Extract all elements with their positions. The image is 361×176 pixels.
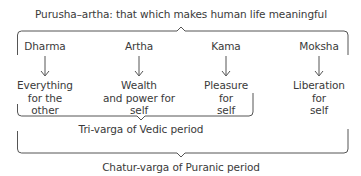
- meaning-line: Liberation: [293, 79, 345, 92]
- arrow-moksha: [315, 56, 323, 76]
- goal-artha: Artha: [125, 40, 153, 53]
- arrow-dharma: [41, 56, 49, 76]
- meaning-kama: Pleasure for self: [204, 79, 248, 117]
- meaning-line: other: [17, 104, 73, 117]
- diagram-title: Purusha–artha: that which makes human li…: [35, 8, 327, 21]
- meaning-line: Wealth: [103, 79, 175, 92]
- meaning-line: Pleasure: [204, 79, 248, 92]
- arrow-kama: [222, 56, 230, 76]
- meaning-line: self: [204, 104, 248, 117]
- meaning-line: and power for: [103, 92, 175, 105]
- meaning-line: for the: [17, 92, 73, 105]
- goal-dharma: Dharma: [24, 40, 65, 53]
- arrow-artha: [135, 56, 143, 76]
- meaning-line: for: [293, 92, 345, 105]
- tri-varga-label: Tri-varga of Vedic period: [79, 123, 204, 136]
- goal-kama: Kama: [211, 40, 240, 53]
- goal-moksha: Moksha: [299, 40, 339, 53]
- meaning-line: for: [204, 92, 248, 105]
- meaning-dharma: Everything for the other: [17, 79, 73, 117]
- meaning-artha: Wealth and power for self: [103, 79, 175, 117]
- meaning-moksha: Liberation for self: [293, 79, 345, 117]
- meaning-line: self: [293, 104, 345, 117]
- chatur-varga-label: Chatur-varga of Puranic period: [102, 161, 260, 174]
- meaning-line: self: [103, 104, 175, 117]
- meaning-line: Everything: [17, 79, 73, 92]
